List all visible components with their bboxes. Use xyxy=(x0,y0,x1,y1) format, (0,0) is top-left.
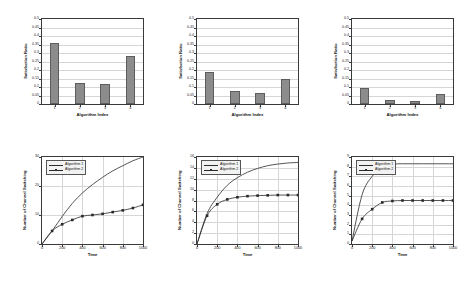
legend-item[interactable]: Algorithm 2 xyxy=(204,168,238,173)
y-tick-mark xyxy=(194,36,197,37)
series-marker xyxy=(452,199,453,202)
x-axis-title: Algorithm Index xyxy=(387,113,419,117)
series-marker xyxy=(442,199,445,202)
series-line-2 xyxy=(197,195,298,244)
y-tick-label: 4 xyxy=(347,204,349,208)
bar xyxy=(255,93,265,104)
legend-square-marker xyxy=(365,169,368,172)
y-tick-label: 0.1 xyxy=(344,85,349,89)
y-tick-mark xyxy=(39,79,42,80)
y-tick-mark xyxy=(194,28,197,29)
series-marker xyxy=(401,199,404,202)
x-tick-label: 4 xyxy=(129,107,131,111)
series-marker xyxy=(391,200,394,203)
gridline-y xyxy=(197,53,298,54)
y-tick-label: 6 xyxy=(192,210,194,214)
x-tick-label: 800 xyxy=(120,247,126,251)
y-tick-label: 0.4 xyxy=(189,34,194,38)
y-tick-label: 0.25 xyxy=(342,60,349,64)
y-tick-mark xyxy=(349,87,352,88)
x-tick-label: 0 xyxy=(351,247,353,251)
legend-symbol-2 xyxy=(49,168,63,173)
y-tick-label: 0.45 xyxy=(32,26,39,30)
bar xyxy=(360,88,370,104)
y-tick-label: 0.2 xyxy=(34,68,39,72)
series-marker xyxy=(361,218,364,221)
x-axis-title: Time xyxy=(88,253,98,257)
gridline-y xyxy=(352,36,453,37)
x-tick-label: 4 xyxy=(439,107,441,111)
x-axis-title: Time xyxy=(243,253,253,257)
legend-item[interactable]: Algorithm 2 xyxy=(49,168,83,173)
series-marker xyxy=(277,194,280,197)
y-tick-mark xyxy=(39,104,42,105)
y-tick-label: 0.05 xyxy=(342,94,349,98)
x-tick-label: 0 xyxy=(41,247,43,251)
y-tick-label: 4 xyxy=(192,220,194,224)
y-tick-label: 0.05 xyxy=(187,94,194,98)
x-tick-label: 400 xyxy=(79,247,85,251)
y-tick-label: 0.2 xyxy=(344,68,349,72)
legend-label: Algorithm 2 xyxy=(220,168,238,172)
series-marker xyxy=(226,198,229,201)
series-marker xyxy=(381,201,384,204)
series-marker xyxy=(111,211,114,214)
y-tick-mark xyxy=(39,28,42,29)
x-tick-label: 1 xyxy=(54,107,56,111)
legend-line xyxy=(359,165,373,166)
x-tick-label: 1 xyxy=(209,107,211,111)
x-tick-label: 1000 xyxy=(449,247,457,251)
y-tick-label: 12 xyxy=(190,177,194,181)
series-marker xyxy=(432,199,435,202)
y-tick-label: 0.1 xyxy=(34,85,39,89)
series-marker xyxy=(421,199,424,202)
y-tick-label: 0.4 xyxy=(34,34,39,38)
bar xyxy=(281,79,291,105)
bar xyxy=(205,72,215,104)
gridline-y xyxy=(352,62,453,63)
y-tick-label: 0.25 xyxy=(32,60,39,64)
x-tick-label: 1000 xyxy=(294,247,302,251)
y-tick-mark xyxy=(349,70,352,71)
y-tick-mark xyxy=(194,45,197,46)
legend-item[interactable]: Algorithm 2 xyxy=(359,168,393,173)
y-tick-mark xyxy=(194,104,197,105)
gridline-y xyxy=(42,28,143,29)
x-axis-title: Time xyxy=(398,253,408,257)
series-marker xyxy=(216,203,219,206)
gridline-y xyxy=(352,45,453,46)
bar-chart-2-axes: 00.050.10.150.20.250.30.350.40.450.51234… xyxy=(196,18,299,105)
y-tick-mark xyxy=(39,53,42,54)
series-marker xyxy=(287,194,290,197)
y-tick-mark xyxy=(194,79,197,80)
gridline-y xyxy=(197,45,298,46)
gridline-y xyxy=(352,53,453,54)
y-tick-label: 0.1 xyxy=(189,85,194,89)
y-tick-mark xyxy=(349,96,352,97)
y-tick-label: 9 xyxy=(347,155,349,159)
x-tick-label: 400 xyxy=(389,247,395,251)
gridline-y xyxy=(197,28,298,29)
y-tick-mark xyxy=(39,87,42,88)
y-tick-mark xyxy=(349,45,352,46)
y-tick-label: 0 xyxy=(37,242,39,246)
y-axis-title: Number of Channel Switching xyxy=(333,157,337,244)
x-tick-label: 4 xyxy=(284,107,286,111)
y-tick-label: 20 xyxy=(35,184,39,188)
y-axis-title: Satisfaction Ratio xyxy=(179,19,183,104)
legend-label: Algorithm 2 xyxy=(65,168,83,172)
bar-chart-3-axes: 00.050.10.150.20.250.30.350.40.450.51234… xyxy=(351,18,454,105)
y-tick-mark xyxy=(39,70,42,71)
y-tick-label: 0.45 xyxy=(342,26,349,30)
y-tick-label: 30 xyxy=(35,155,39,159)
x-axis-title: Algorithm Index xyxy=(77,113,109,117)
y-tick-label: 0.35 xyxy=(187,43,194,47)
x-tick-label: 3 xyxy=(259,107,261,111)
gridline-y xyxy=(352,79,453,80)
series-line-2 xyxy=(352,200,453,241)
figure-canvas: 00.050.10.150.20.250.30.350.40.450.51234… xyxy=(0,0,465,282)
y-tick-label: 7 xyxy=(347,175,349,179)
y-axis-title: Number of Channel Switching xyxy=(178,157,182,244)
legend-line xyxy=(49,165,63,166)
gridline-y xyxy=(42,36,143,37)
